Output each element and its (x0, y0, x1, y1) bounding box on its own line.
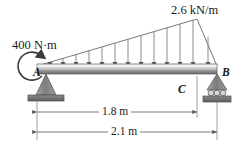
load-intensity-label: 2.6 kN/m (171, 4, 218, 17)
load-arrows (50, 20, 208, 63)
dimension-label-ab: 2.1 m (108, 126, 140, 138)
distributed-load-outline (37, 19, 217, 66)
point-c-label: C (178, 84, 186, 96)
beam (37, 64, 217, 74)
point-a-label: A (33, 67, 41, 79)
point-b-label: B (222, 67, 230, 79)
beam-diagram: 2.6 kN/m 400 N·m A B C 1.8 m 2.1 m (0, 0, 250, 150)
dimension-label-ac: 1.8 m (99, 106, 131, 118)
applied-moment-label: 400 N·m (12, 39, 57, 52)
